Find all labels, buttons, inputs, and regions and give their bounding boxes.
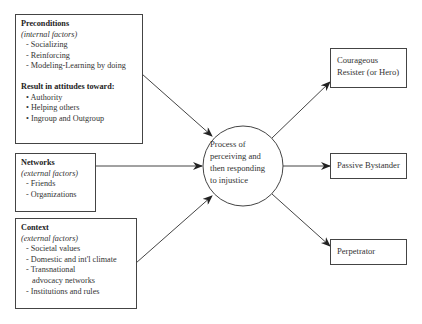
result-item: • Ingroup and Outgroup: [21, 114, 137, 125]
preconditions-item: - Modeling-Learning by doing: [21, 61, 137, 72]
networks-box: Networks (external factors) - Friends - …: [15, 153, 96, 212]
networks-item: - Friends: [21, 179, 90, 190]
arrow-process-to-resister: [272, 82, 330, 138]
outcome-line: Perpetrator: [337, 245, 400, 257]
networks-title: Networks: [21, 158, 90, 169]
result-item: • Authority: [21, 93, 137, 104]
process-line: perceiving and: [210, 150, 280, 162]
process-line: Process of: [210, 138, 280, 150]
networks-item: - Organizations: [21, 190, 90, 201]
networks-subtitle: (external factors): [21, 169, 90, 180]
process-line: then responding: [210, 162, 280, 174]
process-line: to injustice: [210, 174, 280, 186]
preconditions-box: Preconditions (internal factors) - Socia…: [15, 14, 143, 144]
preconditions-item: - Reinforcing: [21, 51, 137, 62]
context-item: - Domestic and int'l climate: [21, 255, 131, 266]
context-item: - Transnational: [21, 265, 131, 276]
outcome-line: Courageous: [337, 54, 400, 66]
courageous-resister-box: Courageous Resister (or Hero): [330, 48, 407, 88]
passive-bystander-box: Passive Bystander: [330, 153, 407, 179]
context-item: advocacy networks: [21, 276, 131, 287]
preconditions-subtitle: (internal factors): [21, 30, 137, 41]
preconditions-title: Preconditions: [21, 19, 137, 30]
result-title: Result in attitudes toward:: [21, 82, 137, 93]
preconditions-item: - Socializing: [21, 40, 137, 51]
context-subtitle: (external factors): [21, 234, 131, 245]
perpetrator-box: Perpetrator: [330, 239, 407, 265]
process-label: Process of perceiving and then respondin…: [210, 138, 280, 186]
arrow-preconditions-to-process: [142, 74, 212, 136]
context-box: Context (external factors) - Societal va…: [15, 218, 137, 309]
arrow-context-to-process: [136, 196, 212, 263]
context-item: - Societal values: [21, 244, 131, 255]
outcome-line: Resister (or Hero): [337, 66, 400, 78]
outcome-line: Passive Bystander: [337, 159, 400, 171]
context-title: Context: [21, 223, 131, 234]
arrow-process-to-perpetrator: [272, 194, 330, 246]
context-item: - Institutions and rules: [21, 287, 131, 298]
result-item: • Helping others: [21, 103, 137, 114]
